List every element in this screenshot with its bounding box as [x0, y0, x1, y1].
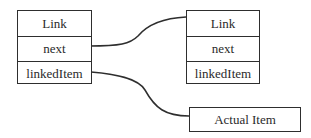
link-node-title: Link — [18, 11, 91, 36]
next-pointer-edge — [89, 17, 186, 46]
link-node-title: Link — [187, 11, 259, 36]
actual-item-node: Actual Item — [189, 107, 301, 132]
linked-item-pointer-edge — [91, 72, 189, 116]
linked-item-field: linkedItem — [18, 61, 91, 86]
next-field: next — [18, 36, 91, 61]
linked-item-field: linkedItem — [187, 61, 259, 86]
next-field: next — [187, 36, 259, 61]
link-node-1: Link next linkedItem — [17, 10, 92, 84]
link-node-2: Link next linkedItem — [186, 10, 260, 84]
